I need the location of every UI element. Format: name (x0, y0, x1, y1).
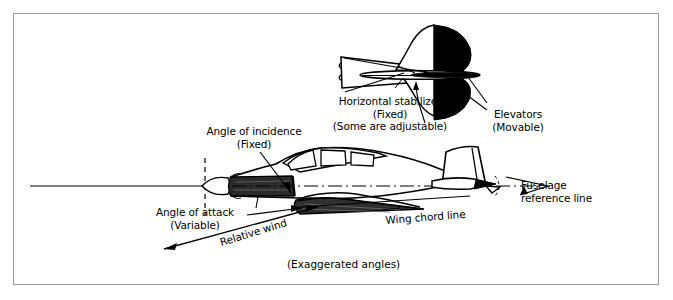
aircraft-angle-diagram (0, 0, 673, 300)
label-angle-of-attack: Angle of attack (Variable) (143, 206, 247, 231)
label-horizontal-stabilizer-line2: (Fixed) (331, 108, 449, 121)
label-fuselage-reference-line2: reference line (521, 192, 592, 205)
label-horizontal-stabilizer-line1: Horizontal stabilizer (331, 95, 449, 108)
relative-wind-arrow-left (164, 243, 177, 250)
label-elevators-line1: Elevators (481, 108, 555, 121)
label-fuselage-reference-line: Fuselage reference line (521, 179, 592, 204)
cabin-window-front (321, 150, 346, 166)
cabin-window-rear (351, 152, 374, 166)
label-angle-of-incidence-line1: Angle of incidence (192, 125, 316, 138)
label-angle-of-attack-line2: (Variable) (143, 219, 247, 232)
diagram-page: Horizontal stabilizer (Fixed) (Some are … (0, 0, 673, 300)
vertical-fin (396, 25, 434, 71)
elevator-upper-black (434, 25, 471, 71)
label-horizontal-stabilizer-line3: (Some are adjustable) (331, 120, 449, 133)
label-fuselage-reference-line1: Fuselage (521, 179, 592, 192)
label-angle-of-attack-line1: Angle of attack (143, 206, 247, 219)
aircraft-side-view (30, 147, 548, 215)
label-angle-of-incidence-line2: (Fixed) (192, 138, 316, 151)
label-elevators-line2: (Movable) (481, 121, 555, 134)
label-angle-of-incidence: Angle of incidence (Fixed) (192, 125, 316, 150)
figure-caption: (Exaggerated angles) (287, 258, 400, 270)
nose-gear (256, 197, 258, 208)
elevator-hinge-ellipse (411, 72, 479, 77)
label-horizontal-stabilizer: Horizontal stabilizer (Fixed) (Some are … (331, 95, 449, 133)
tail-cone (486, 186, 500, 193)
propeller-spinner (202, 177, 232, 194)
label-elevators: Elevators (Movable) (481, 108, 555, 133)
